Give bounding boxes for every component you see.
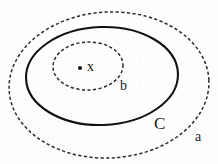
point-x-dot [78, 66, 82, 70]
label-outer-set-a: a [195, 130, 201, 144]
middle-ellipse-c [24, 24, 179, 127]
label-point-x: x [87, 60, 94, 74]
label-middle-set-c: C [154, 115, 165, 132]
outer-ellipse-a [5, 7, 212, 163]
label-inner-set-b: b [120, 79, 127, 93]
nested-ellipses-figure [0, 0, 218, 164]
diagram-canvas: a b C x [0, 0, 218, 164]
